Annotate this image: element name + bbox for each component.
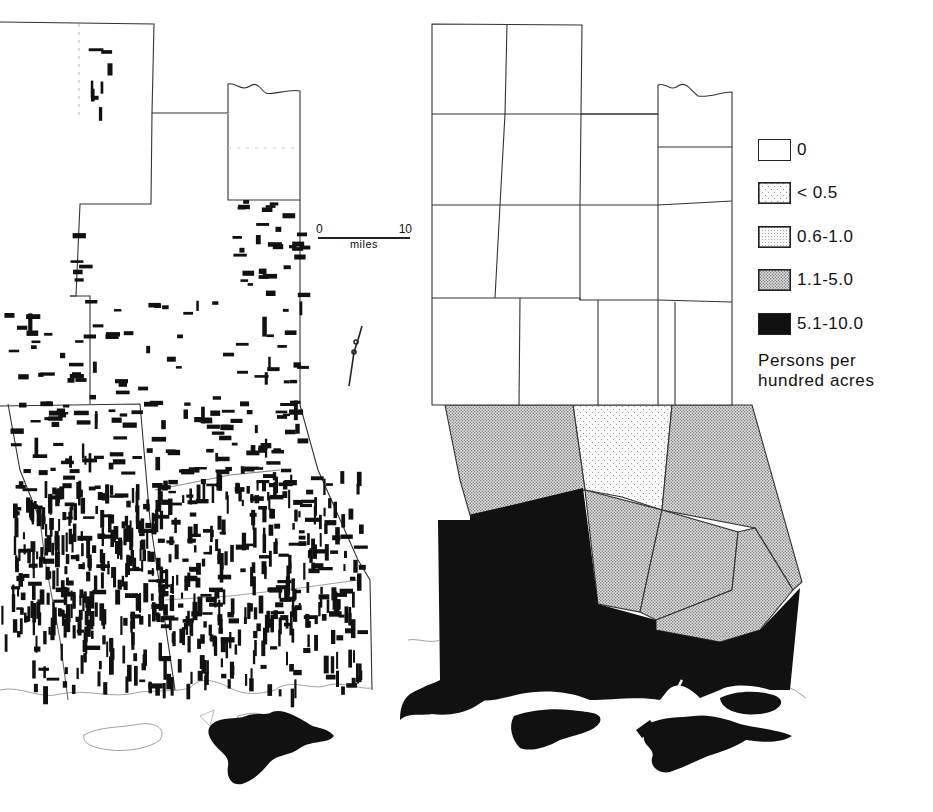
legend-label: 5.1-10.0 — [797, 314, 863, 334]
legend-item-1: < 0.5 — [758, 181, 838, 205]
map-figure: 0 10 miles 0 < 0.5 0.6-1.0 1.1-5.0 — [0, 0, 933, 812]
scale-end-label: 10 — [399, 222, 412, 236]
left-island — [208, 711, 334, 784]
legend-swatch-sparse-dots — [758, 182, 791, 204]
legend-item-3: 1.1-5.0 — [758, 268, 853, 292]
settlement-dots — [1, 48, 368, 707]
legend-swatch-blank — [758, 139, 791, 161]
legend-label: 1.1-5.0 — [797, 270, 853, 290]
legend-swatch-solid — [758, 313, 791, 335]
right-map — [402, 24, 802, 714]
scale-start-label: 0 — [316, 222, 323, 236]
legend-caption-line2: hundred acres — [758, 371, 874, 391]
legend-caption: Persons per hundred acres — [758, 351, 874, 391]
legend-item-2: 0.6-1.0 — [758, 225, 853, 249]
legend-caption-line1: Persons per — [758, 351, 874, 371]
legend-swatch-dense-dots — [758, 269, 791, 291]
legend-label: 0.6-1.0 — [797, 227, 853, 247]
legend-item-0: 0 — [758, 138, 807, 162]
legend-label: 0 — [797, 140, 807, 160]
scale-unit-label: miles — [316, 238, 412, 250]
north-arrow-icon — [349, 326, 362, 386]
legend-item-4: 5.1-10.0 — [758, 312, 863, 336]
legend-label: < 0.5 — [797, 183, 838, 203]
legend-swatch-fine-dots — [758, 226, 791, 248]
maps-canvas — [0, 0, 933, 812]
scale-bar: 0 10 miles — [316, 222, 412, 258]
